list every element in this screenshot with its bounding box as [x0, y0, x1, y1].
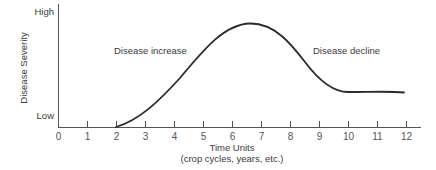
x-tick-label: 10	[343, 131, 355, 142]
x-tick-label: 6	[230, 131, 236, 142]
x-tick-label: 7	[259, 131, 265, 142]
disease-progress-chart: High Low Disease Severity 01234567891011…	[0, 0, 436, 170]
x-tick-label: 12	[401, 131, 413, 142]
x-tick-label: 3	[143, 131, 149, 142]
x-axis-subtitle: (crop cycles, years, etc.)	[181, 153, 284, 164]
x-axis-title: Time Units	[209, 142, 254, 153]
x-ticks: 0123456789101112	[56, 121, 413, 142]
x-tick-label: 4	[172, 131, 178, 142]
y-axis-title: Disease Severity	[18, 32, 29, 104]
y-low-label: Low	[37, 110, 55, 121]
x-tick-label: 5	[201, 131, 207, 142]
x-tick-label: 8	[288, 131, 294, 142]
disease-increase-annotation: Disease increase	[114, 45, 187, 56]
x-tick-label: 11	[372, 131, 383, 142]
x-tick-label: 1	[85, 131, 91, 142]
y-high-label: High	[34, 6, 54, 17]
disease-severity-curve	[116, 23, 404, 127]
x-tick-label: 9	[317, 131, 323, 142]
x-tick-label: 2	[114, 131, 120, 142]
disease-decline-annotation: Disease decline	[313, 45, 380, 56]
x-tick-label: 0	[56, 131, 62, 142]
